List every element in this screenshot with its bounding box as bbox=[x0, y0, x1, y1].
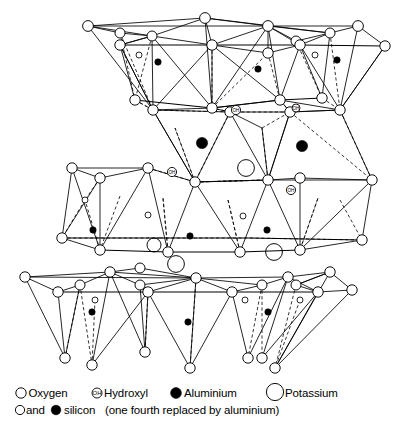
figure-background bbox=[0, 0, 400, 425]
hydroxyl-atom: OH bbox=[231, 105, 240, 114]
legend-item-oxygen: Oxygen bbox=[16, 387, 68, 399]
silicon-filled-icon bbox=[51, 405, 61, 415]
svg-text:OH: OH bbox=[233, 108, 240, 113]
svg-text:OH: OH bbox=[288, 188, 295, 193]
legend-note-substitution: (one fourth replaced by aluminium) bbox=[105, 404, 280, 416]
legend-label-potassium: Potassium bbox=[285, 387, 338, 399]
hydroxyl-atom: OH bbox=[286, 185, 295, 194]
svg-text:OH: OH bbox=[293, 106, 300, 111]
legend-label-oxygen: Oxygen bbox=[29, 387, 68, 399]
legend-label-and: and bbox=[26, 404, 45, 416]
aluminium-icon bbox=[171, 388, 182, 399]
legend-item-hydroxyl: OH Hydroxyl bbox=[92, 387, 148, 399]
hydroxyl-atom: OH bbox=[292, 104, 300, 112]
legend-label-silicon: silicon bbox=[64, 404, 95, 416]
structure-drawing: .sl { stroke:#000; stroke-width:0.85; fi… bbox=[0, 0, 400, 425]
svg-text:OH: OH bbox=[169, 170, 176, 175]
legend-item-silicon: and silicon (one fourth replaced by alum… bbox=[15, 404, 279, 416]
hydroxyl-icon-text: OH bbox=[93, 390, 102, 396]
legend-label-hydroxyl: Hydroxyl bbox=[104, 387, 148, 399]
legend-label-aluminium: Aluminium bbox=[184, 387, 237, 399]
silicon-open-icon bbox=[15, 405, 24, 414]
hydroxyl-atom: OH bbox=[167, 167, 176, 176]
crystal-structure-figure: .sl { stroke:#000; stroke-width:0.85; fi… bbox=[0, 0, 400, 425]
oxygen-icon bbox=[16, 388, 26, 398]
